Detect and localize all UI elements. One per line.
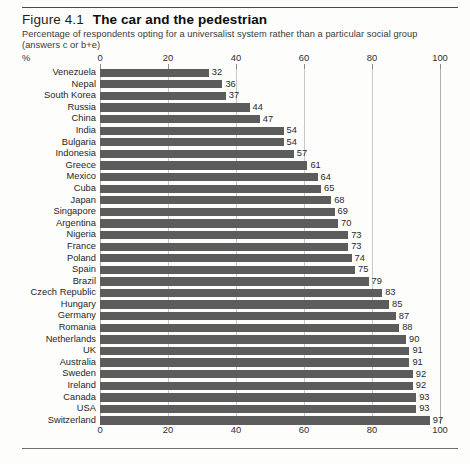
bar-value-label: 57 <box>297 149 307 158</box>
bar <box>100 196 331 204</box>
bar-row: Poland74 <box>0 254 470 266</box>
country-label: Bulgaria <box>62 138 96 147</box>
bar-value-label: 54 <box>287 138 297 147</box>
bar <box>100 219 338 227</box>
country-label: Germany <box>58 311 96 320</box>
bar <box>100 150 294 158</box>
bar-row: Cuba65 <box>0 184 470 196</box>
country-label: France <box>67 242 96 251</box>
bar-value-label: 90 <box>409 335 419 344</box>
bar-row: Ireland92 <box>0 381 470 393</box>
bottom-divider <box>22 448 458 449</box>
bar <box>100 358 409 366</box>
bar <box>100 92 226 100</box>
bar-value-label: 93 <box>419 393 429 402</box>
bar-row: India54 <box>0 126 470 138</box>
figure-title: The car and the pedestrian <box>93 12 267 27</box>
bar-value-label: 91 <box>412 358 422 367</box>
bar-row: Netherlands90 <box>0 335 470 347</box>
top-divider <box>22 7 458 8</box>
bar-value-label: 37 <box>229 91 239 100</box>
bar-rows: Venezuela32Nepal36South Korea37Russia44C… <box>0 68 470 427</box>
bar-value-label: 88 <box>402 323 412 332</box>
country-label: Japan <box>71 196 96 205</box>
country-label: Czech Republic <box>31 288 96 297</box>
bar <box>100 300 389 308</box>
bar-value-label: 79 <box>372 277 382 286</box>
bar-value-label: 32 <box>212 68 222 77</box>
figure-subtitle: Percentage of respondents opting for a u… <box>22 29 452 52</box>
country-label: Mexico <box>66 172 96 181</box>
bar-value-label: 65 <box>324 184 334 193</box>
bar-value-label: 83 <box>385 288 395 297</box>
bar <box>100 69 209 77</box>
bar <box>100 254 352 262</box>
bar-value-label: 87 <box>399 312 409 321</box>
bar-value-label: 93 <box>419 404 429 413</box>
bar <box>100 277 369 285</box>
country-label: Singapore <box>53 207 96 216</box>
country-label: Indonesia <box>56 149 97 158</box>
bar-row: Singapore69 <box>0 207 470 219</box>
bar-value-label: 91 <box>412 346 422 355</box>
x-tick-label-top-80: 80 <box>367 52 377 63</box>
bar-value-label: 54 <box>287 126 297 135</box>
bar-value-label: 74 <box>355 254 365 263</box>
bar-row: Indonesia57 <box>0 149 470 161</box>
bar-value-label: 69 <box>338 207 348 216</box>
country-label: Brazil <box>73 277 96 286</box>
bar-row: Russia44 <box>0 103 470 115</box>
bar-value-label: 73 <box>351 242 361 251</box>
bar <box>100 115 260 123</box>
bar-row: Mexico64 <box>0 172 470 184</box>
bar-row: Venezuela32 <box>0 68 470 80</box>
bar-row: China47 <box>0 114 470 126</box>
bar-row: Romania88 <box>0 323 470 335</box>
country-label: Hungary <box>61 300 96 309</box>
country-label: Sweden <box>62 369 96 378</box>
bar <box>100 103 250 111</box>
country-label: UK <box>83 346 96 355</box>
bar <box>100 161 307 169</box>
bar <box>100 80 222 88</box>
bar <box>100 382 413 390</box>
bar-value-label: 97 <box>433 416 443 425</box>
country-label: Netherlands <box>46 335 96 344</box>
bar <box>100 347 409 355</box>
country-label: Spain <box>72 265 96 274</box>
bar <box>100 393 416 401</box>
x-tick-label-top-20: 20 <box>163 52 173 63</box>
bar <box>100 173 318 181</box>
country-label: Switzerland <box>48 416 96 425</box>
bar <box>100 231 348 239</box>
bar <box>100 208 335 216</box>
x-axis-top: 020406080100 <box>0 52 470 66</box>
bar-value-label: 64 <box>321 173 331 182</box>
country-label: Venezuela <box>52 68 96 77</box>
country-label: USA <box>77 404 96 413</box>
country-label: India <box>76 126 96 135</box>
bar <box>100 324 399 332</box>
bar-value-label: 92 <box>416 370 426 379</box>
country-label: Greece <box>65 161 96 170</box>
x-tick-label-top-0: 0 <box>97 52 102 63</box>
bar <box>100 289 382 297</box>
country-label: Romania <box>59 323 96 332</box>
bar <box>100 138 284 146</box>
bar-value-label: 44 <box>253 103 263 112</box>
bar <box>100 405 416 413</box>
country-label: Cuba <box>74 184 96 193</box>
bar-value-label: 47 <box>263 115 273 124</box>
country-label: Argentina <box>56 219 96 228</box>
x-tick-label-top-60: 60 <box>299 52 309 63</box>
bar <box>100 185 321 193</box>
bar-value-label: 92 <box>416 381 426 390</box>
country-label: China <box>72 114 96 123</box>
x-tick-label-top-100: 100 <box>432 52 448 63</box>
figure-heading: Figure 4.1 The car and the pedestrian <box>22 12 267 27</box>
bar-row: Canada93 <box>0 393 470 405</box>
bar <box>100 312 396 320</box>
x-tick-label-top-40: 40 <box>231 52 241 63</box>
country-label: Russia <box>67 103 96 112</box>
figure-number: Figure 4.1 <box>22 12 84 27</box>
